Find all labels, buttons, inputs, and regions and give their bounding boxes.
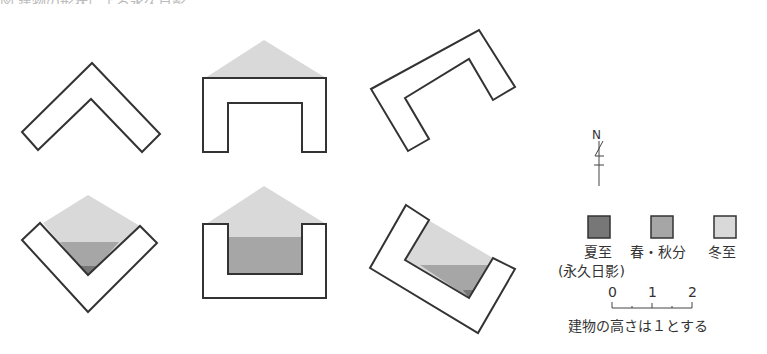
legend-label-equinox: 春・秋分 bbox=[630, 245, 686, 259]
legend-swatch-summer bbox=[588, 216, 610, 238]
equinox-shadow bbox=[228, 237, 302, 274]
scale-bar bbox=[612, 302, 692, 308]
compass-label: N bbox=[592, 129, 601, 141]
legend-label-winter: 冬至 bbox=[708, 245, 736, 259]
legend-sublabel-summer: (永久日影) bbox=[558, 264, 625, 278]
building-u-open-south bbox=[203, 78, 326, 152]
scale-tick-1: 1 bbox=[648, 285, 657, 299]
shadow-diagram bbox=[0, 0, 767, 354]
building-u-rotated-top bbox=[371, 30, 515, 151]
legend-swatch-equinox bbox=[651, 216, 673, 238]
legend-label-summer: 夏至 bbox=[584, 245, 612, 259]
scale-note: 建物の高さは１とする bbox=[568, 319, 708, 333]
building-chevron-top bbox=[22, 63, 160, 152]
winter-shadow bbox=[205, 40, 326, 78]
scale-tick-0: 0 bbox=[608, 285, 617, 299]
winter-shadow-inner bbox=[228, 224, 302, 237]
scale-tick-2: 2 bbox=[688, 285, 697, 299]
legend-swatch-winter bbox=[714, 216, 736, 238]
north-arrow-icon bbox=[594, 141, 604, 186]
